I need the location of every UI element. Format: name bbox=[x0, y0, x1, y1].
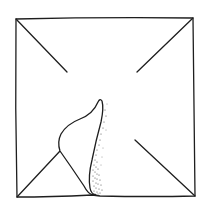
crease-bottom-left bbox=[17, 151, 60, 197]
curled-flap bbox=[59, 100, 103, 195]
folded-paper-illustration bbox=[0, 0, 209, 212]
crease-bottom-right bbox=[135, 140, 195, 196]
crease-top-left bbox=[16, 19, 67, 72]
crease-top-right bbox=[137, 18, 193, 72]
